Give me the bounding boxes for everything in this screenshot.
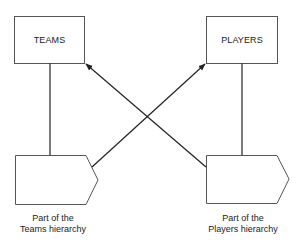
teams-hierarchy-caption: Part of the Teams hierarchy: [0, 213, 108, 235]
players-hierarchy-part-shape: [207, 156, 290, 204]
teams-entity-label: TEAMS: [14, 35, 85, 45]
players-entity-label: PLAYERS: [206, 35, 278, 45]
teams-caption-line1: Part of the: [0, 213, 108, 224]
teams-caption-line2: Teams hierarchy: [0, 224, 108, 235]
players-caption-line2: Players hierarchy: [188, 224, 298, 235]
players-caption-line1: Part of the: [188, 213, 298, 224]
players-hierarchy-caption: Part of the Players hierarchy: [188, 213, 298, 235]
teams-hierarchy-part-shape: [16, 156, 99, 205]
